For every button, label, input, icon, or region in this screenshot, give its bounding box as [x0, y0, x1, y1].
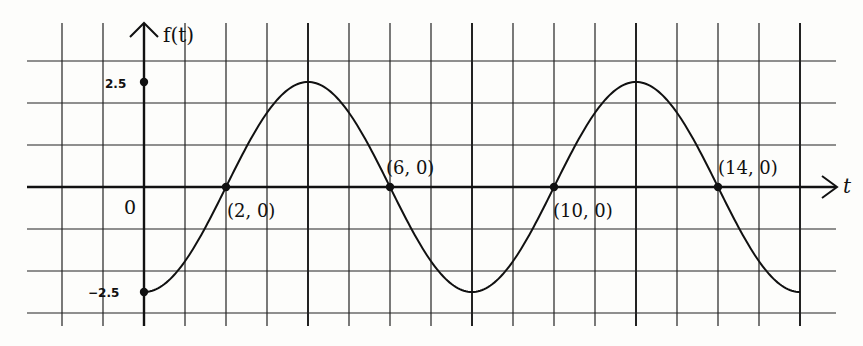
- annotation-6-0: (6, 0): [386, 157, 434, 178]
- data-point: [222, 183, 230, 191]
- y-axis-label: f(t): [163, 23, 194, 47]
- origin-label: 0: [124, 196, 136, 218]
- data-point: [550, 183, 558, 191]
- data-point: [140, 288, 148, 296]
- data-point: [140, 78, 148, 86]
- annotation-10-0: (10, 0): [553, 200, 613, 221]
- y-tick-2.5: 2.5: [105, 77, 126, 91]
- annotation-2-0: (2, 0): [227, 200, 275, 221]
- sinusoid-chart: f(t) t 0 2.5 −2.5 (2, 0) (6, 0) (10, 0) …: [0, 0, 863, 346]
- data-point: [386, 183, 394, 191]
- annotation-14-0: (14, 0): [718, 157, 778, 178]
- y-tick-neg-2.5: −2.5: [88, 286, 119, 300]
- x-axis-label: t: [843, 174, 852, 198]
- data-point: [714, 183, 722, 191]
